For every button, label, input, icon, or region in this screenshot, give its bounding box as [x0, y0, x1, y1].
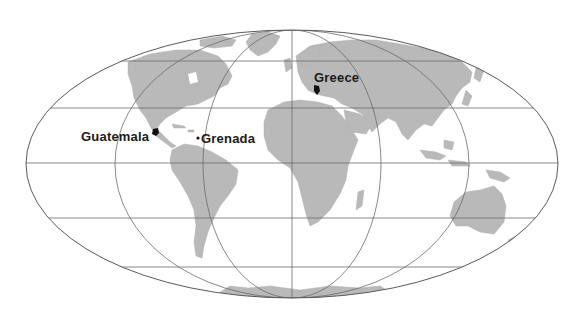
new-guinea [486, 170, 510, 182]
greenland [246, 32, 280, 56]
japan [462, 90, 472, 106]
world-map [0, 0, 562, 311]
british-isles [284, 58, 292, 72]
indonesia [420, 140, 470, 166]
caribbean [172, 124, 194, 132]
label-greece: Greece [314, 70, 359, 85]
madagascar [356, 190, 364, 210]
label-grenada: Grenada [201, 131, 255, 146]
marker-grenada [196, 136, 199, 139]
north-america [128, 50, 232, 130]
south-america [170, 144, 238, 258]
label-guatemala: Guatemala [81, 129, 149, 144]
